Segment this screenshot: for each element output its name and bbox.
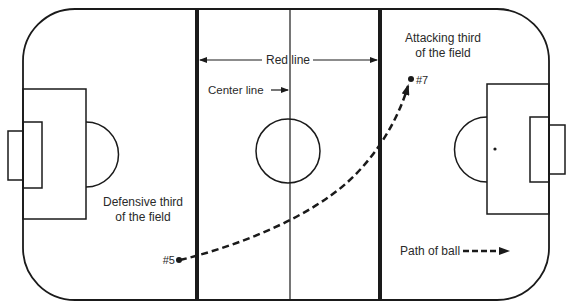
player-5-label: #5: [163, 254, 175, 266]
center-line-label: Center line: [208, 84, 264, 96]
legend-path-label: Path of ball: [400, 244, 460, 258]
field-diagram: Red line Center line Attacking third of …: [0, 0, 571, 304]
defensive-third-label-2: of the field: [115, 210, 170, 224]
red-line-annotation: Red line: [200, 53, 377, 67]
attacking-third-label-1: Attacking third: [405, 31, 481, 45]
player-5-marker: [176, 257, 182, 263]
left-penalty-arc: [86, 122, 119, 187]
left-goal-box: [23, 122, 42, 188]
attacking-third-label-2: of the field: [415, 46, 470, 60]
right-goal: [549, 125, 565, 174]
player-7-marker: [408, 76, 414, 82]
right-penalty-arc: [455, 117, 488, 182]
player-7-label: #7: [416, 74, 428, 86]
right-penalty-area: [455, 84, 566, 214]
center-line-annotation: Center line: [208, 84, 288, 96]
center-circle: [256, 119, 320, 183]
penalty-spot: [493, 147, 496, 150]
legend: Path of ball: [400, 244, 508, 258]
ball-path: [180, 86, 408, 260]
red-line-label: Red line: [266, 53, 310, 67]
left-penalty-area: [8, 89, 119, 219]
left-goal: [8, 131, 23, 180]
defensive-third-label-1: Defensive third: [103, 195, 183, 209]
right-goal-box: [530, 117, 549, 182]
